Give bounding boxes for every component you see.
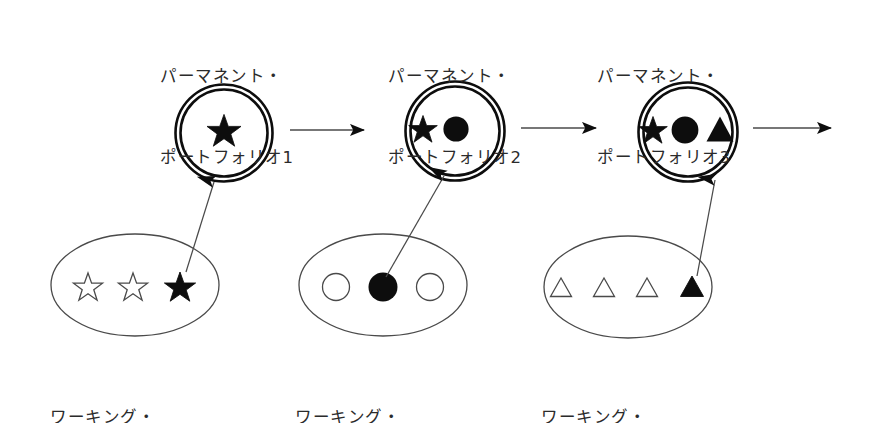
working-1-filled-star-icon: [164, 272, 195, 301]
working-2-outline-circle-icon-a: [323, 274, 350, 301]
permanent-portfolio-2-label-line1: パーマネント・: [388, 63, 522, 90]
working-portfolio-1-node: [51, 234, 219, 336]
working-1-outline-star-icon-a: [74, 273, 103, 300]
working-3-outline-triangle-icon-b: [594, 278, 615, 297]
permanent-portfolio-1-label: パーマネント・ ポートフォリオ1: [160, 9, 294, 225]
working-1-outline-star-icon-b: [119, 273, 148, 300]
working-2-filled-circle-icon: [369, 273, 398, 302]
working-portfolio-2-label: ワーキング・ ポートフォリオ2: [295, 350, 429, 423]
working-3-outline-triangle-icon-a: [551, 278, 572, 297]
permanent-portfolio-3-label-line1: パーマネント・: [597, 63, 731, 90]
working-portfolio-2-node: [299, 234, 467, 336]
diagram-root: パーマネント・ ポートフォリオ1 パーマネント・ ポートフォリオ2 パーマネント…: [0, 0, 886, 423]
working-portfolio-1-label: ワーキング・ ポートフォリオ1: [50, 350, 184, 423]
working-portfolio-3-label: ワーキング・ ポートフォリオ3: [541, 350, 675, 423]
permanent-portfolio-2-label-line2: ポートフォリオ2: [388, 144, 522, 171]
permanent-portfolio-2-label: パーマネント・ ポートフォリオ2: [388, 9, 522, 225]
working-portfolio-2-label-line1: ワーキング・: [295, 404, 429, 423]
permanent-portfolio-3-label: パーマネント・ ポートフォリオ3: [597, 9, 731, 225]
working-2-outline-circle-icon-b: [417, 274, 444, 301]
permanent-portfolio-1-label-line1: パーマネント・: [160, 63, 294, 90]
working-portfolio-1-label-line1: ワーキング・: [50, 404, 184, 423]
permanent-portfolio-3-label-line2: ポートフォリオ3: [597, 144, 731, 171]
working-3-filled-triangle-icon: [681, 276, 704, 297]
working-portfolio-3-node: [544, 236, 712, 338]
working-3-outline-triangle-icon-c: [637, 278, 658, 297]
permanent-portfolio-1-label-line2: ポートフォリオ1: [160, 144, 294, 171]
working-portfolio-3-label-line1: ワーキング・: [541, 404, 675, 423]
